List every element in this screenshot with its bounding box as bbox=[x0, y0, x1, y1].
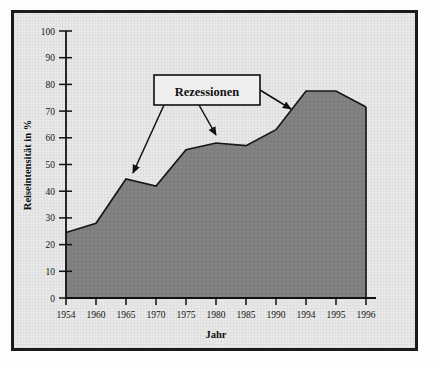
y-axis-title: Reiseintensität in % bbox=[22, 120, 33, 210]
x-tick-label: 1980 bbox=[207, 310, 226, 320]
y-tick-label: 0 bbox=[50, 294, 55, 304]
y-axis-tick-labels: 0 10 20 30 40 50 60 70 80 90 100 bbox=[41, 27, 56, 304]
x-axis-ticks bbox=[66, 298, 366, 305]
x-axis-tick-labels: 1954 1960 1965 1970 1975 1980 1985 1990 … bbox=[57, 310, 376, 320]
figure-frame: 0 10 20 30 40 50 60 70 80 90 100 Reisein… bbox=[11, 10, 418, 351]
y-tick-label: 70 bbox=[46, 107, 56, 117]
annotation-arrow-1966 bbox=[133, 105, 164, 173]
x-tick-label: 1990 bbox=[267, 310, 286, 320]
y-tick-label: 100 bbox=[41, 27, 56, 37]
y-tick-label: 80 bbox=[46, 80, 56, 90]
x-axis-title: Jahr bbox=[206, 329, 227, 340]
y-tick-label: 10 bbox=[46, 267, 56, 277]
x-tick-label: 1954 bbox=[57, 310, 76, 320]
figure-page: 0 10 20 30 40 50 60 70 80 90 100 Reisein… bbox=[0, 0, 434, 367]
y-tick-label: 90 bbox=[46, 53, 56, 63]
x-tick-label: 1994 bbox=[297, 310, 316, 320]
x-tick-label: 1965 bbox=[117, 310, 136, 320]
y-tick-label: 60 bbox=[46, 133, 56, 143]
y-tick-label: 20 bbox=[46, 240, 56, 250]
x-tick-label: 1975 bbox=[177, 310, 196, 320]
x-tick-label: 1996 bbox=[357, 310, 376, 320]
area-series-texture bbox=[66, 31, 366, 298]
y-tick-label: 40 bbox=[46, 187, 56, 197]
annotation-arrow-1991 bbox=[260, 90, 291, 109]
callout-label: Rezessionen bbox=[175, 85, 240, 99]
y-tick-label: 30 bbox=[46, 213, 56, 223]
x-tick-label: 1960 bbox=[87, 310, 106, 320]
x-tick-label: 1985 bbox=[237, 310, 256, 320]
y-tick-label: 50 bbox=[46, 160, 56, 170]
x-tick-label: 1995 bbox=[327, 310, 346, 320]
annotation-arrow-1980 bbox=[199, 105, 216, 135]
travel-intensity-area-chart: 0 10 20 30 40 50 60 70 80 90 100 Reisein… bbox=[14, 13, 415, 348]
rezessionen-callout[interactable]: Rezessionen bbox=[154, 75, 260, 105]
x-tick-label: 1970 bbox=[147, 310, 166, 320]
